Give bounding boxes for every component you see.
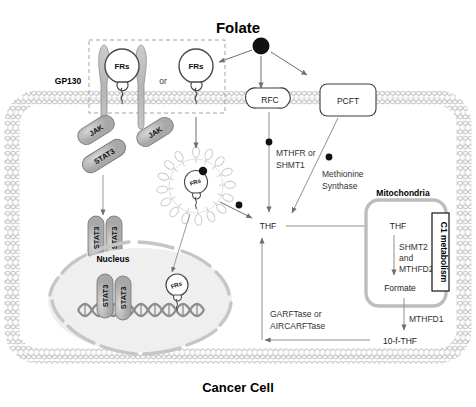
folate-molecule-dot bbox=[253, 38, 270, 55]
gp130-label: GP130 bbox=[55, 76, 82, 86]
methionine-synthase-line1: Methionine bbox=[322, 169, 364, 179]
thf-mito-label: THF bbox=[390, 221, 407, 231]
shmt2-label-line3: MTHFD2 bbox=[399, 264, 434, 274]
folate-arrows bbox=[219, 50, 307, 88]
pcft-transporter: PCFT bbox=[320, 84, 376, 116]
endosome-release-folate-dot bbox=[236, 202, 243, 209]
mitochondria-label: Mitochondria bbox=[376, 188, 430, 198]
ten-f-thf-label: 10-f-THF bbox=[383, 336, 417, 346]
frs-label-right: FRs bbox=[188, 62, 204, 71]
methionine-synthase-line2: Synthase bbox=[322, 181, 358, 191]
rfc-label: RFC bbox=[261, 95, 278, 105]
garftase-label-line2: AIRCARFTase bbox=[270, 321, 326, 331]
stat3-nucleus-label-2: STAT3 bbox=[119, 287, 128, 310]
rfc-transport-folate-dot bbox=[266, 139, 273, 146]
garftase-label-line1: GARFTase or bbox=[270, 309, 322, 319]
figure-canvas: Folate GP130 FRs or FRs JAK bbox=[0, 0, 476, 407]
mthfr-shmt1-label-line1: MTHFR or bbox=[276, 148, 316, 158]
mthfd1-label: MTHFD1 bbox=[409, 314, 444, 324]
pcft-transport-folate-dot bbox=[326, 154, 333, 161]
frs-label-left: FRs bbox=[114, 62, 130, 71]
mthfr-shmt1-label-line2: SHMT1 bbox=[276, 160, 305, 170]
pcft-label: PCFT bbox=[337, 96, 359, 106]
shmt2-label-line1: SHMT2 bbox=[399, 242, 428, 252]
nucleus-label: Nucleus bbox=[96, 254, 129, 264]
shmt2-label-line2: and bbox=[399, 253, 413, 263]
folate-title: Folate bbox=[216, 19, 260, 36]
stat3-nucleus-label-1: STAT3 bbox=[101, 285, 110, 308]
endosome-folate-dot bbox=[199, 167, 207, 175]
c1-metabolism-box: C1 metabolism bbox=[432, 213, 449, 291]
c1-metabolism-label: C1 metabolism bbox=[439, 222, 449, 283]
thf-cytosol-label: THF bbox=[260, 221, 277, 231]
stat3-dimer-label-1: STAT3 bbox=[92, 227, 101, 250]
cancer-cell-label: Cancer Cell bbox=[202, 380, 274, 395]
rfc-transporter: RFC bbox=[246, 88, 291, 108]
or-label: or bbox=[159, 76, 167, 86]
formate-label: Formate bbox=[384, 283, 416, 293]
